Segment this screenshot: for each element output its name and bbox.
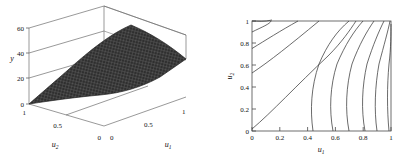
u2-tick-1: 1 <box>23 109 27 117</box>
z-axis-ticks <box>26 28 29 104</box>
contour-plot-panel: 0 0.2 0.4 0.6 0.8 1 0 0.2 0.4 0.6 0.8 1 … <box>200 0 401 157</box>
contour-axes-frame <box>252 21 391 131</box>
contour-y-tick-04: 0.4 <box>240 84 249 92</box>
contour-y-tick-1: 1 <box>246 18 250 26</box>
surface-plot-svg: 60 40 20 0 1 0.5 0 0 0.5 1 y u2 u1 <box>0 0 200 157</box>
u1-axis-title: u1 <box>165 140 172 150</box>
z-tick-0: 0 <box>21 101 25 109</box>
contour-x-tick-1: 1 <box>389 134 393 142</box>
contour-x-axis-title: u1 <box>318 145 325 155</box>
figure-two-panel: 60 40 20 0 1 0.5 0 0 0.5 1 y u2 u1 <box>0 0 401 157</box>
u1-tick-1: 1 <box>182 108 186 116</box>
contour-y-tick-02: 0.2 <box>240 106 249 114</box>
surface-mesh <box>20 10 200 140</box>
contour-y-tick-0: 0 <box>246 128 250 136</box>
surface-plot-panel: 60 40 20 0 1 0.5 0 0 0.5 1 y u2 u1 <box>0 0 200 157</box>
box-top-edges <box>29 6 186 35</box>
u1-tick-0: 0 <box>110 134 114 142</box>
svg-text:u2: u2 <box>225 72 235 79</box>
contour-x-tick-06: 0.6 <box>331 134 340 142</box>
contour-y-tick-08: 0.8 <box>240 40 249 48</box>
contour-x-tick-0: 0 <box>250 134 254 142</box>
z-tick-60: 60 <box>17 25 25 33</box>
contour-y-tick-06: 0.6 <box>240 62 249 70</box>
z-tick-40: 40 <box>17 50 25 58</box>
gridline-z60-right <box>104 6 186 35</box>
u2-tick-05: 0.5 <box>53 122 62 130</box>
contour-x-tick-04: 0.4 <box>303 134 312 142</box>
svg-text:u1: u1 <box>318 145 325 155</box>
svg-text:u2: u2 <box>52 140 59 150</box>
u1-tick-05: 0.5 <box>144 121 153 129</box>
u2-axis-title: u2 <box>52 140 59 150</box>
contour-plot-svg: 0 0.2 0.4 0.6 0.8 1 0 0.2 0.4 0.6 0.8 1 … <box>200 0 401 157</box>
contour-x-tick-08: 0.8 <box>359 134 368 142</box>
svg-text:u1: u1 <box>165 140 172 150</box>
contour-x-tick-02: 0.2 <box>275 134 284 142</box>
z-axis-title: y <box>9 54 14 63</box>
u2-tick-0: 0 <box>98 134 102 142</box>
contour-y-axis-title: u2 <box>225 72 235 79</box>
z-tick-20: 20 <box>17 75 25 83</box>
